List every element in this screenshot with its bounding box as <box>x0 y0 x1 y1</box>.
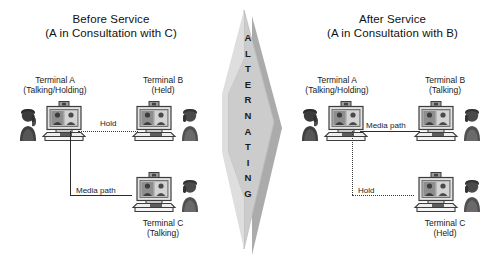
before-terminal-c-name: Terminal C <box>103 218 223 228</box>
before-terminal-b-label: Terminal B (Held) <box>103 75 223 95</box>
before-media-path-label: Media path <box>74 186 118 195</box>
after-terminal-b-rig <box>406 99 484 143</box>
alt-letter: E <box>240 77 256 93</box>
after-title-line2: (A in Consultation with B) <box>282 26 503 40</box>
after-terminal-a-label: Terminal A (Talking/Holding) <box>277 75 397 95</box>
alt-letter: N <box>240 108 256 124</box>
alt-letter: R <box>240 92 256 108</box>
videoconference-terminal-icon <box>130 101 178 143</box>
alternating-label: ALTERNATING <box>240 30 256 202</box>
before-terminal-a-name: Terminal A <box>0 75 115 85</box>
after-hold-label: Hold <box>356 186 376 195</box>
before-terminal-b-rig <box>124 99 202 143</box>
after-terminal-b-state: (Talking) <box>385 85 503 95</box>
alt-letter: I <box>240 155 256 171</box>
videoconference-terminal-icon <box>40 101 88 143</box>
before-terminal-b: Terminal B (Held) <box>124 99 202 143</box>
before-service-title: Before Service (A in Consultation with C… <box>0 12 222 40</box>
after-terminal-a-name: Terminal A <box>277 75 397 85</box>
after-terminal-c-rig <box>406 170 484 214</box>
after-hold-link-horizontal <box>352 195 414 196</box>
videoconference-terminal-icon <box>412 172 460 214</box>
before-terminal-b-name: Terminal B <box>103 75 223 85</box>
before-terminal-a-rig <box>16 99 94 143</box>
panel-after-service: After Service (A in Consultation with B)… <box>282 0 503 259</box>
before-title-line2: (A in Consultation with C) <box>0 26 222 40</box>
after-hold-link-vertical <box>352 131 353 195</box>
after-media-link <box>360 131 420 132</box>
before-terminal-c-state: (Talking) <box>103 228 223 238</box>
alt-letter: T <box>240 139 256 155</box>
person-icon <box>178 108 202 142</box>
after-terminal-b: Terminal B (Talking) <box>406 99 484 143</box>
before-terminal-c: Terminal C (Talking) <box>124 170 202 214</box>
alternating-arrow: ALTERNATING <box>216 2 288 257</box>
videoconference-terminal-icon <box>412 101 460 143</box>
after-terminal-c-name: Terminal C <box>385 218 503 228</box>
before-hold-label: Hold <box>98 119 118 128</box>
before-media-link-horizontal <box>70 195 132 196</box>
before-terminal-a: Terminal A (Talking/Holding) <box>16 99 94 143</box>
videoconference-terminal-icon <box>130 172 178 214</box>
alt-letter: G <box>240 186 256 202</box>
after-media-path-label: Media path <box>364 121 408 130</box>
person-icon <box>460 108 484 142</box>
person-icon <box>460 179 484 213</box>
after-terminal-c-state: (Held) <box>385 228 503 238</box>
diagram-canvas: Before Service (A in Consultation with C… <box>0 0 503 259</box>
after-title-line1: After Service <box>282 12 503 26</box>
before-title-line1: Before Service <box>0 12 222 26</box>
before-terminal-c-label: Terminal C (Talking) <box>103 218 223 238</box>
after-service-title: After Service (A in Consultation with B) <box>282 12 503 40</box>
alt-letter: N <box>240 170 256 186</box>
person-icon <box>298 108 322 142</box>
before-media-link-vertical <box>70 131 71 195</box>
after-terminal-b-label: Terminal B (Talking) <box>385 75 503 95</box>
before-terminal-a-label: Terminal A (Talking/Holding) <box>0 75 115 95</box>
alt-letter: L <box>240 46 256 62</box>
videoconference-terminal-icon <box>322 101 370 143</box>
alt-letter: A <box>240 30 256 46</box>
panel-before-service: Before Service (A in Consultation with C… <box>0 0 222 259</box>
before-hold-link <box>78 131 138 132</box>
before-terminal-c-rig <box>124 170 202 214</box>
after-terminal-b-name: Terminal B <box>385 75 503 85</box>
after-terminal-c: Terminal C (Held) <box>406 170 484 214</box>
alt-letter: T <box>240 61 256 77</box>
before-terminal-a-state: (Talking/Holding) <box>0 85 115 95</box>
alt-letter: A <box>240 124 256 140</box>
before-terminal-b-state: (Held) <box>103 85 223 95</box>
person-icon <box>16 108 40 142</box>
after-terminal-c-label: Terminal C (Held) <box>385 218 503 238</box>
after-terminal-a-state: (Talking/Holding) <box>277 85 397 95</box>
person-icon <box>178 179 202 213</box>
